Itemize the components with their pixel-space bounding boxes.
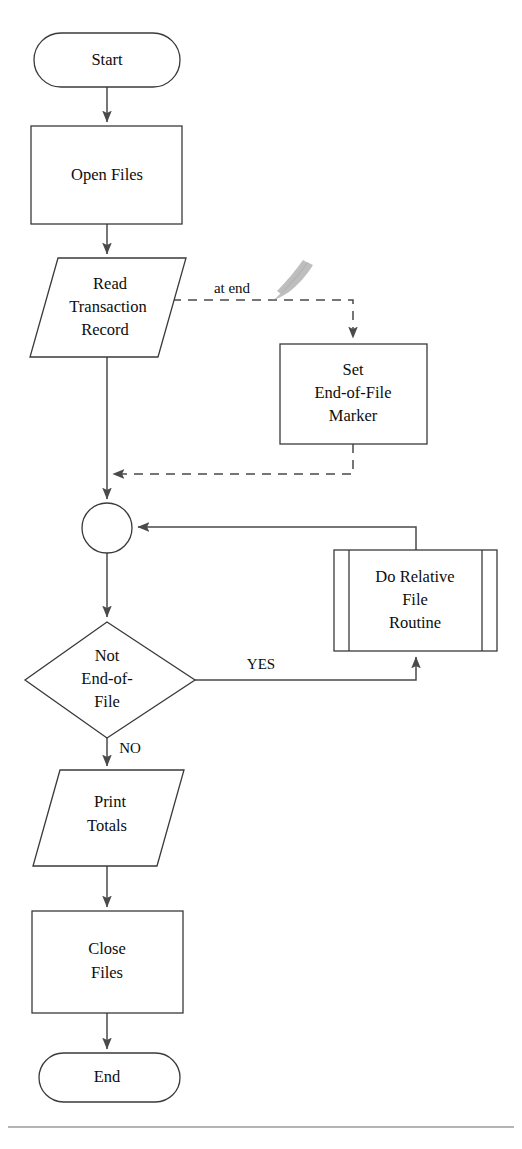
edge-label-no: NO [119, 740, 141, 756]
edge-eof-return-dashed [113, 444, 353, 474]
node-read-transaction-record[interactable]: Read Transaction Record [30, 258, 186, 357]
routine-label-line3: Routine [389, 613, 441, 632]
connector-circle-shape [82, 503, 132, 553]
set-eof-label-line2: End-of-File [315, 383, 392, 402]
open-files-label: Open Files [71, 165, 143, 184]
node-decision-not-eof[interactable]: Not End-of- File [25, 622, 195, 738]
close-files-label-line2: Files [91, 963, 123, 982]
flowchart-canvas: Set End-of-File Marker (dashed) --> rout… [0, 0, 522, 1149]
node-end[interactable]: End [39, 1053, 180, 1102]
print-totals-label-line1: Print [94, 792, 127, 811]
edge-label-at-end: at end [214, 280, 251, 296]
node-set-eof-marker[interactable]: Set End-of-File Marker [280, 344, 427, 444]
node-open-files[interactable]: Open Files [31, 126, 182, 224]
flowchart-svg: Set End-of-File Marker (dashed) --> rout… [0, 0, 522, 1149]
routine-label-line1: Do Relative [375, 567, 454, 586]
decision-label-line3: File [94, 692, 120, 711]
node-close-files[interactable]: Close Files [32, 911, 183, 1013]
start-label: Start [91, 50, 123, 69]
decision-label-line2: End-of- [81, 669, 132, 688]
read-record-label-line1: Read [93, 274, 128, 293]
edge-at-end-dashed [172, 300, 353, 338]
print-totals-label-line2: Totals [87, 816, 127, 835]
node-print-totals[interactable]: Print Totals [33, 770, 184, 866]
set-eof-label-line3: Marker [329, 406, 378, 425]
edge-label-yes: YES [247, 656, 275, 672]
read-record-label-line3: Record [81, 320, 129, 339]
close-files-label-line1: Close [88, 939, 126, 958]
node-start[interactable]: Start [34, 33, 180, 87]
end-label: End [94, 1067, 121, 1086]
node-connector-circle[interactable] [82, 503, 132, 553]
set-eof-label-line1: Set [342, 360, 364, 379]
decision-label-line1: Not [95, 646, 120, 665]
edge-routine-to-connector [138, 527, 416, 550]
routine-label-line2: File [402, 590, 428, 609]
read-record-label-line2: Transaction [69, 297, 146, 316]
edge-yes-to-routine [195, 657, 416, 680]
node-do-relative-file-routine[interactable]: Do Relative File Routine [334, 550, 497, 651]
